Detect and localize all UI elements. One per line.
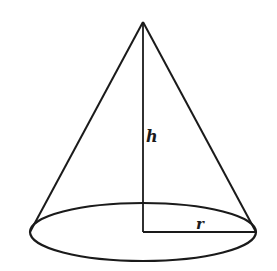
height-label: h: [146, 127, 158, 146]
cone-diagram: h r: [0, 0, 277, 271]
cone-left-slant: [30, 22, 143, 232]
cone-right-slant: [143, 22, 256, 232]
radius-label: r: [196, 215, 205, 233]
cone-drawing: h r: [0, 0, 277, 271]
